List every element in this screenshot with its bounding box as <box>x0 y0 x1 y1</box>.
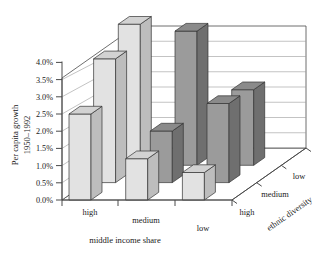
z-category-high: high <box>240 208 256 217</box>
y-tick-label-8: 4.0% <box>36 58 53 67</box>
y-tick-label-1: 0.5% <box>36 179 53 188</box>
y-tick-label-5: 2.5% <box>36 110 53 119</box>
y-tick-label-3: 1.5% <box>36 144 53 153</box>
x-axis: high medium low middle income share <box>62 200 232 245</box>
y-tick-label-6: 3.0% <box>36 93 53 102</box>
chart-canvas: 0.0% 0.5% 1.0% 1.5% 2.0% 2.5% 3.0% 3.5% … <box>0 0 328 255</box>
x-category-medium: medium <box>132 216 160 225</box>
z-category-medium: medium <box>261 190 289 199</box>
y-tick-label-0: 0.0% <box>36 196 53 205</box>
y-axis-title: Per capita growth 1950–1992 <box>10 104 32 165</box>
y-axis-title-line1: Per capita growth <box>10 104 20 165</box>
bar-chart-3d: 0.0% 0.5% 1.0% 1.5% 2.0% 2.5% 3.0% 3.5% … <box>0 0 328 255</box>
z-axis-title: ethnic diversity <box>265 194 315 233</box>
x-axis-title: middle income share <box>89 235 161 245</box>
y-tick-label-2: 1.0% <box>36 162 53 171</box>
y-axis: 0.0% 0.5% 1.0% 1.5% 2.0% 2.5% 3.0% 3.5% … <box>36 58 62 205</box>
bar-high-low <box>182 165 215 200</box>
y-axis-title-line2: 1950–1992 <box>22 116 32 155</box>
x-category-high: high <box>83 208 99 217</box>
bar-high-medium <box>126 151 159 200</box>
bar-high-high <box>69 106 102 200</box>
y-tick-label-7: 3.5% <box>36 76 53 85</box>
y-tick-label-4: 2.0% <box>36 127 53 136</box>
z-category-low: low <box>293 172 307 181</box>
x-category-low: low <box>197 224 211 233</box>
